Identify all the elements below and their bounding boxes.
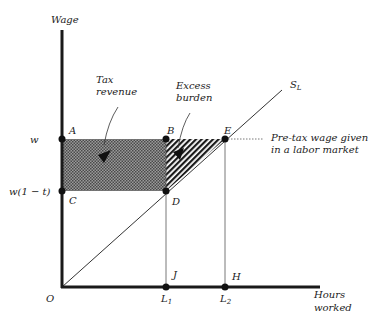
point-b-label: B — [166, 125, 174, 136]
tax-revenue-label-line2: revenue — [96, 86, 137, 97]
excess-burden-label-line1: Excess — [175, 80, 211, 91]
y-axis-label: Wage — [51, 14, 79, 25]
point-h — [222, 284, 229, 291]
pretax-wage-annotation-line2: in a labor market — [271, 144, 360, 155]
point-c — [59, 188, 66, 195]
point-j — [163, 284, 170, 291]
excess-burden-region — [166, 139, 225, 191]
x-axis-label-line1: Hours — [313, 289, 345, 300]
tax-revenue-region — [62, 139, 166, 191]
point-j-label: J — [171, 269, 178, 280]
point-d — [163, 188, 170, 195]
pretax-wage-label: w — [30, 134, 39, 145]
point-d-label: D — [171, 196, 180, 207]
point-h-label: H — [231, 271, 241, 282]
l2-label: L2 — [219, 293, 232, 306]
tax-incidence-diagram: Wage Hours worked O w w(1 − t) A B E C D… — [0, 0, 379, 319]
supply-curve-label: SL — [290, 79, 302, 92]
point-e-label: E — [223, 125, 232, 136]
excess-burden-label-line2: burden — [176, 92, 212, 103]
point-e — [222, 136, 229, 143]
origin-label: O — [46, 293, 54, 304]
point-b — [163, 136, 170, 143]
posttax-wage-label: w(1 − t) — [9, 186, 51, 197]
tax-revenue-label-line1: Tax — [96, 74, 114, 85]
point-a-label: A — [68, 125, 76, 136]
point-a — [59, 136, 66, 143]
x-axis-label-line2: worked — [314, 302, 352, 313]
pretax-wage-annotation-line1: Pre-tax wage given — [270, 132, 368, 143]
point-c-label: C — [69, 195, 77, 206]
l1-label: L1 — [160, 293, 172, 306]
